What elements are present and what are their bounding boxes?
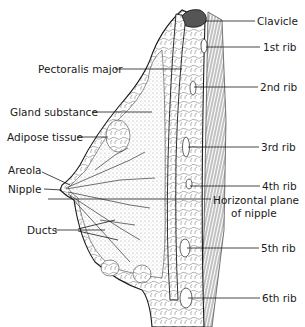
label-nipple: Nipple <box>8 183 41 195</box>
label-pectoralis-major: Pectoralis major <box>38 63 122 75</box>
adipose-lobule <box>106 120 130 152</box>
rib-2-bone <box>190 81 196 95</box>
label-areola: Areola <box>8 164 42 176</box>
label-rib-2: 2nd rib <box>260 81 297 93</box>
adipose-lobule <box>133 265 151 283</box>
adipose-lobule <box>101 260 119 276</box>
rib-1-bone <box>201 39 207 53</box>
clavicle-bone <box>182 10 206 28</box>
rib-4-bone <box>186 179 192 189</box>
label-rib-1: 1st rib <box>263 41 297 53</box>
anatomy-drawing <box>0 0 305 327</box>
label-rib-3: 3rd rib <box>261 141 296 153</box>
label-horizontal-plane-line2: of nipple <box>231 207 277 219</box>
label-rib-4: 4th rib <box>262 180 297 192</box>
label-rib-6: 6th rib <box>262 292 297 304</box>
label-rib-5: 5th rib <box>261 242 296 254</box>
label-gland-substance: Gland substance <box>10 106 98 118</box>
breast-anatomy-diagram: Pectoralis major Gland substance Adipose… <box>0 0 305 327</box>
label-clavicle: Clavicle <box>257 15 298 27</box>
label-adipose-tissue: Adipose tissue <box>7 131 83 143</box>
label-horizontal-plane-line1: Horizontal plane <box>213 194 299 206</box>
label-ducts: Ducts <box>27 224 57 236</box>
